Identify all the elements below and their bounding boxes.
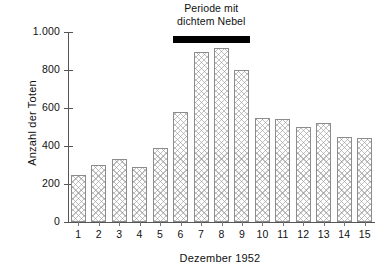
x-axis-tick	[222, 222, 223, 226]
y-axis-tick	[64, 108, 73, 109]
bar	[71, 175, 86, 223]
y-axis-tick-label: 200	[0, 177, 60, 189]
y-axis-tick	[64, 222, 73, 223]
y-axis-tick-label: 600	[0, 101, 60, 113]
x-axis-tick	[78, 222, 79, 226]
x-axis-tick-label: 15	[353, 228, 377, 240]
y-axis-tick-label: 800	[0, 63, 60, 75]
bar	[91, 165, 106, 222]
bar	[234, 70, 249, 222]
x-axis-tick	[119, 222, 120, 226]
y-axis-tick	[64, 70, 73, 71]
y-axis-tick	[64, 146, 73, 147]
bar	[357, 138, 372, 222]
fog-annotation-line-2: dichtem Nebel	[151, 15, 271, 28]
x-axis-tick	[242, 222, 243, 226]
y-axis-tick	[64, 32, 73, 33]
x-axis-tick	[201, 222, 202, 226]
x-axis-title: Dezember 1952	[60, 252, 380, 264]
y-axis-tick-label: 1.000	[0, 25, 60, 37]
bar	[173, 112, 188, 222]
bar	[194, 52, 209, 222]
y-axis-tick-label: 400	[0, 139, 60, 151]
fog-period-annotation: Periode mit dichtem Nebel	[151, 2, 271, 27]
bar	[132, 167, 147, 222]
bar	[255, 118, 270, 223]
bar	[337, 137, 352, 223]
x-axis-tick	[140, 222, 141, 226]
bar	[275, 119, 290, 222]
x-axis-tick	[324, 222, 325, 226]
x-axis-tick	[181, 222, 182, 226]
bar	[296, 127, 311, 222]
bar	[316, 123, 331, 222]
bar-chart: Periode mit dichtem Nebel Anzahl der Tot…	[0, 0, 387, 276]
x-axis-tick	[365, 222, 366, 226]
x-axis-tick	[344, 222, 345, 226]
bar	[214, 48, 229, 222]
x-axis-tick	[160, 222, 161, 226]
x-axis-tick	[303, 222, 304, 226]
y-axis-tick-label: 0	[0, 215, 60, 227]
fog-annotation-line-1: Periode mit	[151, 2, 271, 15]
x-axis-tick	[99, 222, 100, 226]
x-axis-tick	[262, 222, 263, 226]
bar	[112, 159, 127, 222]
bar	[153, 148, 168, 222]
x-axis-tick	[283, 222, 284, 226]
